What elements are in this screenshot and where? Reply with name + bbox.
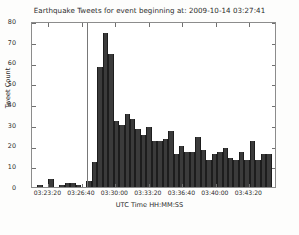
x-tick-label: 03:36:40 — [168, 190, 195, 196]
bar — [266, 154, 271, 187]
x-tick-mark — [48, 23, 49, 27]
x-tick-mark — [216, 23, 217, 27]
x-tick-mark — [249, 184, 250, 188]
x-tick-mark — [82, 184, 83, 188]
y-tick-mark — [32, 85, 36, 86]
event-marker-line — [87, 23, 88, 187]
x-tick-mark — [249, 23, 250, 27]
y-tick-mark — [32, 65, 36, 66]
x-tick-label: 03:30:00 — [101, 190, 128, 196]
y-tick-mark — [32, 127, 36, 128]
y-tick-mark — [272, 127, 276, 128]
x-tick-label: 03:23:20 — [34, 190, 61, 196]
plot-area — [31, 22, 276, 188]
x-tick-label: 03:33:20 — [134, 190, 161, 196]
y-tick-mark — [272, 44, 276, 45]
y-tick-mark — [272, 23, 276, 24]
x-tick-mark — [48, 184, 49, 188]
x-tick-mark — [149, 184, 150, 188]
y-tick-label: 20 — [8, 143, 16, 149]
x-axis-label: UTC Time HH:MM:SS — [0, 201, 299, 209]
x-tick-mark — [115, 184, 116, 188]
y-tick-label: 0 — [12, 185, 16, 191]
x-tick-mark — [182, 23, 183, 27]
chart-title: Earthquake Tweets for event beginning at… — [0, 6, 299, 15]
bar-series — [32, 23, 275, 187]
y-tick-mark — [272, 65, 276, 66]
y-tick-mark — [32, 168, 36, 169]
y-tick-mark — [32, 148, 36, 149]
bar — [48, 179, 53, 187]
y-tick-mark — [272, 85, 276, 86]
y-tick-label: 80 — [8, 19, 16, 25]
y-tick-label: 30 — [8, 123, 16, 129]
y-tick-label: 70 — [8, 40, 16, 46]
y-tick-mark — [272, 148, 276, 149]
x-tick-label: 03:40:00 — [201, 190, 228, 196]
x-tick-mark — [149, 23, 150, 27]
x-tick-mark — [82, 23, 83, 27]
x-tick-label: 03:43:20 — [235, 190, 262, 196]
y-tick-mark — [32, 44, 36, 45]
x-tick-mark — [182, 184, 183, 188]
chart-figure: Earthquake Tweets for event beginning at… — [0, 0, 299, 235]
x-tick-label: 03:26:40 — [67, 190, 94, 196]
y-tick-label: 10 — [8, 164, 16, 170]
x-tick-mark — [216, 184, 217, 188]
y-axis-label: Tweet Count — [4, 53, 12, 123]
y-tick-mark — [272, 168, 276, 169]
y-tick-mark — [32, 106, 36, 107]
x-tick-mark — [115, 23, 116, 27]
bar — [37, 185, 42, 187]
bar — [76, 185, 81, 187]
y-tick-mark — [272, 106, 276, 107]
y-tick-mark — [32, 23, 36, 24]
